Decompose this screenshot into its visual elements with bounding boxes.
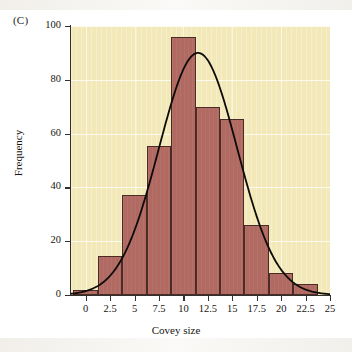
x-tick-label: 25 — [310, 303, 350, 314]
x-tick-mark — [110, 296, 111, 301]
x-tick-mark — [330, 296, 331, 301]
y-tick-mark — [65, 187, 70, 188]
y-axis-line — [70, 25, 71, 296]
x-tick-mark — [86, 296, 87, 301]
x-tick-mark — [159, 296, 160, 301]
y-tick-mark — [65, 80, 70, 81]
x-tick-mark — [135, 296, 136, 301]
x-tick-mark — [281, 296, 282, 301]
x-axis-title: Covey size — [0, 324, 352, 336]
y-tick-mark — [65, 134, 70, 135]
x-tick-mark — [232, 296, 233, 301]
x-tick-mark — [306, 296, 307, 301]
plot-area — [71, 26, 330, 295]
y-tick-label: 80 — [27, 73, 61, 84]
y-tick-label: 20 — [27, 234, 61, 245]
y-tick-label: 100 — [27, 19, 61, 30]
normal-fit-curve — [71, 26, 330, 295]
y-tick-label: 0 — [27, 288, 61, 299]
y-tick-mark — [65, 26, 70, 27]
x-tick-mark — [183, 296, 184, 301]
y-tick-mark — [65, 295, 70, 296]
x-tick-mark — [208, 296, 209, 301]
panel-label: (C) — [13, 14, 28, 26]
x-tick-mark — [257, 296, 258, 301]
y-axis-title: Frequency — [12, 113, 24, 193]
histogram-figure: (C) 020406080100 02.557.51012.51517.5202… — [0, 0, 352, 352]
y-tick-label: 40 — [27, 180, 61, 191]
y-tick-mark — [65, 241, 70, 242]
y-tick-label: 60 — [27, 127, 61, 138]
